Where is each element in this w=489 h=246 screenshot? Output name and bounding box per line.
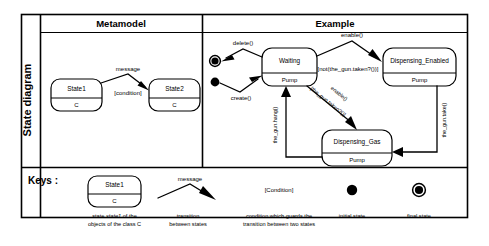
state-compartment: C: [74, 102, 79, 108]
key-state-compartment: C: [112, 198, 117, 204]
key-item-transition: message transition between states: [158, 176, 216, 227]
state-name: State1: [67, 85, 86, 92]
transition-waiting-to-final: [221, 49, 262, 62]
example-final-state: [210, 56, 221, 67]
transition-label-create: create(): [231, 95, 252, 101]
arrow-head: [281, 86, 291, 97]
key-item-condition: [Condition] condition which guards the t…: [243, 187, 315, 227]
state-compartment: Pump: [282, 77, 298, 83]
key-caption-line2: objects of the class C: [88, 221, 141, 227]
key-caption-line2: transition between two states: [243, 221, 315, 227]
key-item-final-state: final state: [407, 184, 431, 219]
key-caption-line1: condition which guards the: [246, 213, 312, 219]
arrow-head: [392, 147, 403, 157]
panel-header-example: Example: [315, 18, 354, 29]
final-state-core: [211, 57, 218, 64]
transition-guard-taken: [the_gun.taken?()]: [309, 85, 347, 118]
state-diagram-figure: Metamodel Example State diagram Keys : S…: [0, 0, 489, 246]
state-compartment: Pump: [412, 77, 428, 83]
transition-initial-to-waiting: [220, 76, 263, 93]
key-caption-line1: final state: [407, 213, 431, 219]
metamodel-transition-message: message: [116, 66, 141, 72]
metamodel-transition-condition: [condition]: [114, 90, 142, 96]
metamodel-transition-arrow: [101, 74, 149, 91]
example-state-dispensing-gas: Dispensing_Gas Pump: [322, 130, 392, 166]
diagram-canvas: Metamodel Example State diagram Keys : S…: [0, 0, 489, 246]
key-arrow-head: [199, 186, 216, 200]
transition-enabled-to-gas: [392, 86, 437, 157]
key-item-state-shape: State1 C state state1 of the objects of …: [88, 176, 141, 227]
arrow-head: [368, 49, 382, 62]
arrow-head: [221, 55, 235, 62]
transition-waiting-to-enabled: [317, 41, 382, 62]
key-caption-line1: state state1 of the: [92, 213, 137, 219]
key-state-name: State1: [105, 181, 124, 188]
key-caption-line1: initial state: [339, 213, 365, 219]
state-compartment: Pump: [349, 157, 365, 163]
key-sample-condition: [Condition]: [265, 187, 294, 193]
state-name: Dispensing_Enabled: [390, 57, 449, 65]
transition-guard-not-taken: [not(the_gun.taken?())]: [317, 66, 378, 72]
example-state-waiting: Waiting Pump: [262, 48, 317, 86]
transition-label-enable-top: enable(): [341, 32, 363, 38]
example-state-dispensing-enabled: Dispensing_Enabled Pump: [383, 48, 456, 86]
metamodel-state-2: State2 C: [149, 79, 200, 111]
state-name: Waiting: [279, 57, 301, 65]
panel-header-metamodel: Metamodel: [96, 18, 146, 29]
transition-label-delete: delete(): [233, 40, 253, 46]
state-name: State2: [165, 85, 184, 92]
final-state-icon-core: [415, 186, 423, 194]
row-label-state-diagram: State diagram: [21, 63, 33, 136]
transition-label-enable-diagonal: enable(): [330, 85, 349, 102]
key-caption-line2: between states: [169, 221, 207, 227]
transition-label-gun-hang: the_gun.hang(): [272, 107, 278, 144]
example-initial-state: [211, 78, 220, 87]
key-item-initial-state: initial state: [339, 185, 365, 219]
key-sample-message: message: [178, 176, 203, 182]
transition-gas-to-waiting: [281, 86, 322, 157]
state-compartment: C: [172, 102, 177, 108]
transition-label-gun-take: the_gun.take(): [441, 102, 447, 137]
metamodel-state-1: State1 C: [51, 79, 102, 111]
keys-label: Keys :: [28, 175, 58, 186]
key-caption-line1: transition: [177, 213, 200, 219]
state-name: Dispensing_Gas: [334, 138, 381, 146]
initial-state-icon: [347, 185, 357, 195]
